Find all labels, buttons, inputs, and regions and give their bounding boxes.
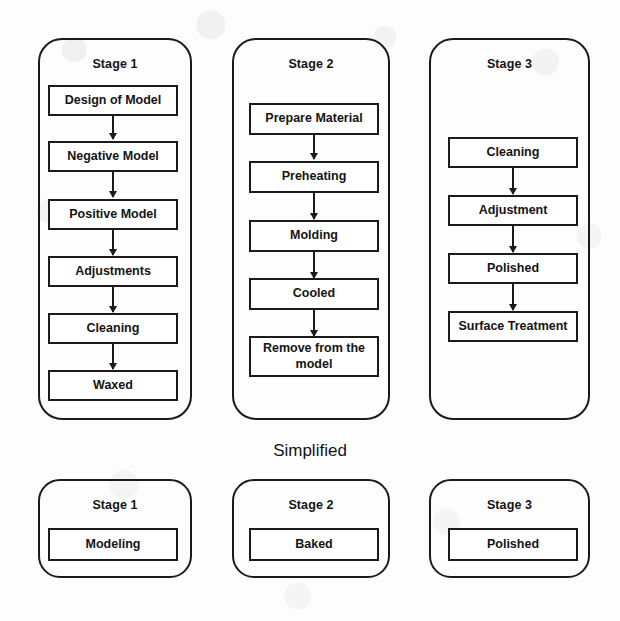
stage-title-2: Stage 2: [232, 57, 390, 71]
process-step-box[interactable]: Surface Treatment: [448, 311, 578, 342]
process-step-box[interactable]: Negative Model: [48, 141, 178, 172]
flow-arrow: [112, 344, 114, 369]
stage-title-3: Stage 3: [429, 57, 590, 71]
simplified-step-box[interactable]: Polished: [448, 528, 578, 561]
flow-arrow: [112, 172, 114, 197]
flow-arrow: [313, 252, 315, 278]
stage-title-1: Stage 1: [38, 57, 192, 71]
process-step-box[interactable]: Design of Model: [48, 85, 178, 116]
flow-arrow: [512, 284, 514, 310]
simplified-step-box[interactable]: Baked: [249, 528, 379, 561]
process-step-box[interactable]: Remove from the model: [249, 336, 379, 377]
simplified-section-label: Simplified: [0, 441, 620, 461]
process-step-box[interactable]: Cooled: [249, 278, 379, 310]
process-step-box[interactable]: Cleaning: [448, 137, 578, 168]
stage-container-3: [429, 38, 590, 420]
process-step-box[interactable]: Cleaning: [48, 313, 178, 344]
process-step-box[interactable]: Positive Model: [48, 199, 178, 230]
process-step-box[interactable]: Adjustment: [448, 195, 578, 226]
process-step-box[interactable]: Molding: [249, 220, 379, 252]
process-step-box[interactable]: Preheating: [249, 161, 379, 193]
simplified-step-box[interactable]: Modeling: [48, 528, 178, 561]
flow-arrow: [512, 226, 514, 252]
process-step-box[interactable]: Adjustments: [48, 256, 178, 287]
flow-arrow: [112, 230, 114, 255]
process-step-box[interactable]: Polished: [448, 253, 578, 284]
process-step-box[interactable]: Waxed: [48, 370, 178, 401]
simplified-stage-title-1: Stage 1: [38, 498, 192, 512]
flowchart-canvas: Stage 1 Design of Model Negative Model P…: [0, 0, 620, 621]
flow-arrow: [313, 135, 315, 159]
flow-arrow: [112, 116, 114, 139]
process-step-box[interactable]: Prepare Material: [249, 103, 379, 135]
simplified-stage-title-3: Stage 3: [429, 498, 590, 512]
simplified-stage-title-2: Stage 2: [232, 498, 390, 512]
flow-arrow: [313, 193, 315, 219]
flow-arrow: [313, 310, 315, 336]
flow-arrow: [112, 287, 114, 312]
flow-arrow: [512, 168, 514, 194]
